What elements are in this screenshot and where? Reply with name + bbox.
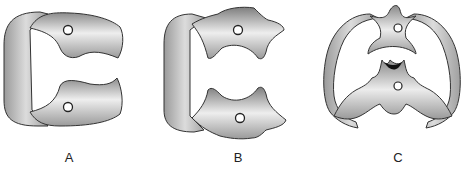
clamp-c: C (310, 0, 475, 175)
clamp-b: B (150, 0, 320, 175)
clamp-b-drawing (150, 0, 320, 175)
label-a: A (59, 150, 79, 165)
label-c: C (388, 150, 408, 165)
label-b: B (228, 150, 248, 165)
clamp-c-drawing (310, 0, 475, 175)
clamp-a-drawing (0, 0, 160, 175)
clamp-a: A (0, 0, 160, 175)
